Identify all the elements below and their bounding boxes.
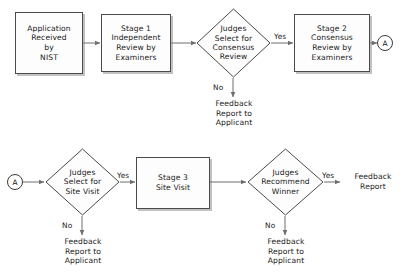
edge-label-site-visit-yes: Yes	[117, 171, 129, 180]
node-stage3-label: Stage 3 Site Visit	[154, 173, 192, 192]
node-stage2[interactable]: Stage 2 Consensus Review by Examiners	[294, 14, 370, 72]
node-stage1-label: Stage 1 Independent Review by Examiners	[109, 24, 162, 62]
node-stage2-label: Stage 2 Consensus Review by Examiners	[309, 24, 355, 62]
node-decision-winner[interactable]: Judges Recommend Winner	[247, 148, 324, 216]
connector-a-in-label: A	[12, 178, 17, 187]
node-decision-site-visit[interactable]: Judges Select for Site Visit	[45, 148, 120, 216]
node-feedback-winner-no: Feedback Report to Applicant	[250, 237, 322, 266]
connector-a-in[interactable]: A	[7, 174, 23, 190]
edge-label-winner-yes: Yes	[322, 171, 334, 180]
node-stage3[interactable]: Stage 3 Site Visit	[136, 157, 210, 209]
node-feedback-winner-yes: Feedback Report	[344, 172, 402, 191]
connector-a-out-label: A	[382, 39, 387, 48]
edge-label-site-visit-no: No	[62, 221, 72, 230]
node-feedback-consensus-no: Feedback Report to Applicant	[198, 99, 270, 128]
flowchart-canvas: Application Received by NIST Stage 1 Ind…	[0, 0, 404, 279]
node-decision-consensus[interactable]: Judges Select for Consensus Review	[196, 8, 271, 78]
connector-a-out[interactable]: A	[377, 35, 393, 51]
node-stage1[interactable]: Stage 1 Independent Review by Examiners	[101, 14, 171, 72]
edge-label-consensus-no: No	[213, 83, 223, 92]
node-application-received-label: Application Received by NIST	[25, 24, 73, 62]
edge-label-winner-no: No	[265, 221, 275, 230]
edge-label-consensus-yes: Yes	[274, 32, 286, 41]
node-application-received[interactable]: Application Received by NIST	[15, 12, 83, 74]
node-feedback-site-visit-no: Feedback Report to Applicant	[47, 237, 119, 266]
